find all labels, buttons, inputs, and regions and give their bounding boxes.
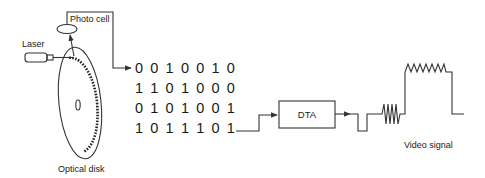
laser-body	[25, 53, 47, 62]
dta-label: DTA	[298, 109, 317, 120]
binary-data: 0 0 1 0 0 1 0 1 1 0 1 0 0 0 0 1 0 1 0 0 …	[135, 60, 236, 136]
binary-row: 1 1 0 1 0 0 0	[135, 80, 236, 96]
optical-disk-signal-diagram: Photo cell Laser Optical disk 0 0 1 0 0 …	[0, 0, 485, 178]
video-signal-label: Video signal	[404, 140, 453, 150]
disk-data-track	[69, 55, 102, 152]
laser-nozzle	[47, 55, 53, 60]
optical-disk-label: Optical disk	[58, 164, 105, 174]
photo-cell-label: Photo cell	[70, 14, 110, 24]
binary-row: 0 1 0 1 0 0 1	[135, 100, 236, 116]
dta-block: DTA	[279, 101, 335, 128]
photo-cell: Photo cell	[57, 14, 110, 34]
optical-disk: Optical disk	[53, 45, 106, 174]
laser-label: Laser	[22, 39, 45, 49]
binary-row: 1 0 1 1 1 0 1	[135, 120, 236, 136]
binary-row: 0 0 1 0 0 1 0	[135, 60, 236, 76]
laser: Laser	[22, 39, 73, 62]
reflected-beam	[70, 35, 74, 56]
photo-cell-shape	[57, 25, 77, 34]
disk-center-hole	[76, 100, 80, 110]
video-signal-waveform	[350, 64, 464, 131]
binary-to-dta-line	[236, 115, 277, 131]
